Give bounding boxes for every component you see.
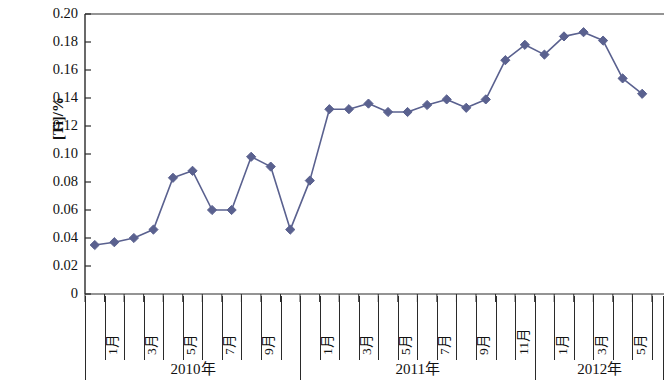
data-point-marker [305, 176, 314, 185]
year-separator [85, 296, 86, 380]
month-tick-cell [320, 296, 340, 360]
month-tick-cell [437, 296, 457, 360]
month-tick-cell [144, 296, 164, 360]
month-tick-cell [476, 296, 496, 360]
data-point-marker [227, 205, 236, 214]
month-tick-cell: 3月 [574, 296, 594, 360]
month-tick-cell [359, 296, 379, 360]
data-point-marker [207, 205, 216, 214]
month-tick-cell [554, 296, 574, 360]
month-tick-cell [261, 296, 281, 360]
year-separator [535, 296, 536, 380]
month-tick-cell [398, 296, 418, 360]
month-tick-cell [105, 296, 125, 360]
month-tick-cell [632, 296, 652, 360]
month-tick-cell: 3月 [339, 296, 359, 360]
month-tick-cell: 5月 [378, 296, 398, 360]
year-group-label: 2010年 [85, 360, 300, 380]
month-axis-band: 1月3月5月7月9月1月3月5月7月9月11月1月3月5月 [85, 296, 664, 360]
month-tick-cell: 1月 [85, 296, 105, 360]
month-tick-cell [183, 296, 203, 360]
data-point-marker [168, 173, 177, 182]
month-tick-cell: 9月 [241, 296, 261, 360]
year-separator [300, 296, 301, 380]
data-point-marker [442, 95, 451, 104]
month-tick-cell: 5月 [163, 296, 183, 360]
data-point-marker [598, 36, 607, 45]
data-point-marker [286, 225, 295, 234]
month-tick-cell [593, 296, 613, 360]
data-point-marker [423, 100, 432, 109]
month-tick-cell: 1月 [300, 296, 320, 360]
month-tick-cell: 3月 [124, 296, 144, 360]
data-point-marker [403, 107, 412, 116]
data-point-marker [481, 95, 490, 104]
data-point-marker [110, 238, 119, 247]
month-tick-cell: 9月 [456, 296, 476, 360]
month-tick-cell: 7月 [202, 296, 222, 360]
year-group-label: 2011年 [300, 360, 535, 380]
year-axis-band: 2010年2011年2012年 [85, 360, 664, 380]
data-point-marker [266, 162, 275, 171]
data-line [95, 32, 642, 245]
data-point-marker [90, 240, 99, 249]
month-tick-cell: 7月 [417, 296, 437, 360]
data-point-marker [462, 103, 471, 112]
month-tick-cell [222, 296, 242, 360]
data-point-marker [325, 105, 334, 114]
data-point-marker [344, 105, 353, 114]
month-tick-cell [515, 296, 535, 360]
month-tick-cell: 1月 [535, 296, 555, 360]
month-tick-cell: 5月 [613, 296, 633, 360]
data-point-marker [149, 225, 158, 234]
data-point-marker [247, 152, 256, 161]
month-tick-cell [281, 296, 301, 360]
chart-container: [Ti]/% 0.200.180.160.140.120.100.080.060… [0, 0, 664, 380]
year-group-label: 2012年 [535, 360, 664, 380]
month-tick-cell: 11月 [496, 296, 516, 360]
data-point-marker [579, 28, 588, 37]
data-point-marker [188, 166, 197, 175]
data-point-marker [129, 233, 138, 242]
data-point-marker [364, 99, 373, 108]
data-point-marker [383, 107, 392, 116]
